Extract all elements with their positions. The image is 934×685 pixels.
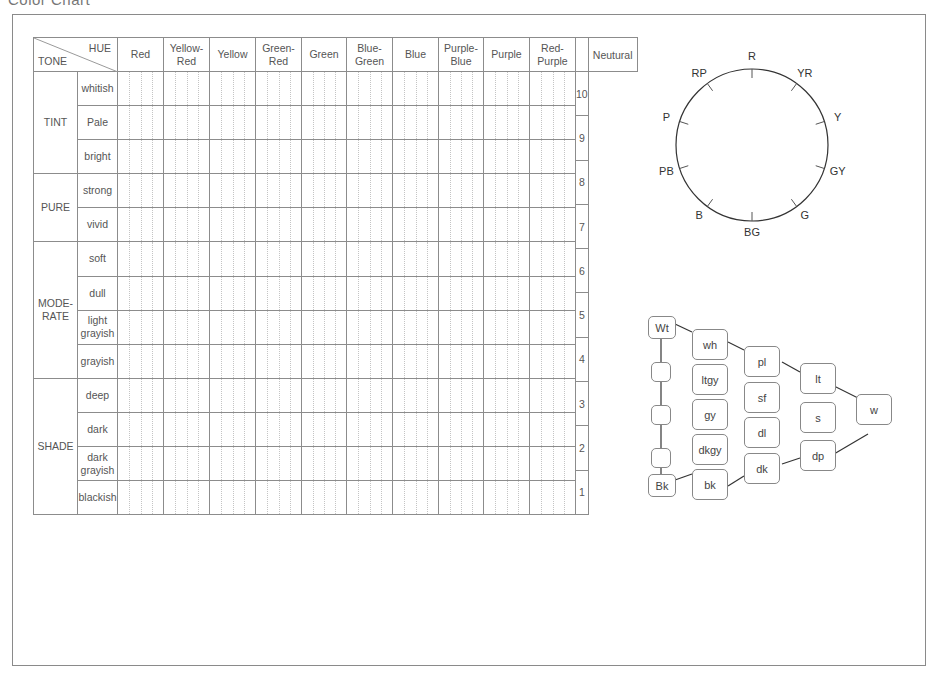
color-swatch-cell[interactable]: [302, 276, 347, 310]
color-swatch-cell[interactable]: [530, 447, 576, 481]
color-swatch-cell[interactable]: [164, 276, 210, 310]
color-swatch-cell[interactable]: [530, 208, 576, 242]
color-swatch-cell[interactable]: [439, 140, 484, 174]
color-swatch-cell[interactable]: [210, 378, 256, 412]
color-swatch-cell[interactable]: [164, 447, 210, 481]
color-swatch-cell[interactable]: [118, 140, 164, 174]
color-swatch-cell[interactable]: [530, 140, 576, 174]
color-swatch-cell[interactable]: [439, 447, 484, 481]
color-swatch-cell[interactable]: [347, 378, 393, 412]
color-swatch-cell[interactable]: [302, 344, 347, 378]
color-swatch-cell[interactable]: [530, 174, 576, 208]
color-swatch-cell[interactable]: [256, 481, 302, 515]
color-swatch-cell[interactable]: [210, 242, 256, 276]
color-swatch-cell[interactable]: [347, 310, 393, 344]
color-swatch-cell[interactable]: [164, 310, 210, 344]
color-swatch-cell[interactable]: [439, 242, 484, 276]
color-swatch-cell[interactable]: [256, 242, 302, 276]
color-swatch-cell[interactable]: [302, 242, 347, 276]
color-swatch-cell[interactable]: [393, 481, 439, 515]
color-swatch-cell[interactable]: [118, 344, 164, 378]
color-swatch-cell[interactable]: [302, 208, 347, 242]
color-swatch-cell[interactable]: [302, 310, 347, 344]
color-swatch-cell[interactable]: [256, 413, 302, 447]
color-swatch-cell[interactable]: [210, 447, 256, 481]
color-swatch-cell[interactable]: [484, 378, 530, 412]
color-swatch-cell[interactable]: [118, 276, 164, 310]
color-swatch-cell[interactable]: [484, 413, 530, 447]
color-swatch-cell[interactable]: [530, 481, 576, 515]
color-swatch-cell[interactable]: [256, 106, 302, 140]
color-swatch-cell[interactable]: [164, 208, 210, 242]
color-swatch-cell[interactable]: [347, 276, 393, 310]
color-swatch-cell[interactable]: [210, 276, 256, 310]
color-swatch-cell[interactable]: [484, 140, 530, 174]
color-swatch-cell[interactable]: [164, 106, 210, 140]
color-swatch-cell[interactable]: [118, 242, 164, 276]
neutral-value-cell[interactable]: 10: [576, 72, 588, 116]
neutral-value-cell[interactable]: 9: [576, 116, 588, 160]
color-swatch-cell[interactable]: [210, 208, 256, 242]
color-swatch-cell[interactable]: [256, 174, 302, 208]
color-swatch-cell[interactable]: [393, 106, 439, 140]
color-swatch-cell[interactable]: [302, 106, 347, 140]
color-swatch-cell[interactable]: [302, 174, 347, 208]
color-swatch-cell[interactable]: [530, 378, 576, 412]
color-swatch-cell[interactable]: [439, 276, 484, 310]
color-swatch-cell[interactable]: [302, 447, 347, 481]
color-swatch-cell[interactable]: [118, 72, 164, 106]
color-swatch-cell[interactable]: [256, 447, 302, 481]
color-swatch-cell[interactable]: [484, 276, 530, 310]
color-swatch-cell[interactable]: [484, 344, 530, 378]
color-swatch-cell[interactable]: [118, 481, 164, 515]
color-swatch-cell[interactable]: [439, 72, 484, 106]
color-swatch-cell[interactable]: [393, 72, 439, 106]
color-swatch-cell[interactable]: [393, 378, 439, 412]
color-swatch-cell[interactable]: [393, 310, 439, 344]
color-swatch-cell[interactable]: [530, 242, 576, 276]
color-swatch-cell[interactable]: [118, 378, 164, 412]
color-swatch-cell[interactable]: [484, 106, 530, 140]
color-swatch-cell[interactable]: [256, 378, 302, 412]
color-swatch-cell[interactable]: [530, 72, 576, 106]
color-swatch-cell[interactable]: [164, 242, 210, 276]
color-swatch-cell[interactable]: [393, 413, 439, 447]
color-swatch-cell[interactable]: [256, 276, 302, 310]
color-swatch-cell[interactable]: [439, 106, 484, 140]
color-swatch-cell[interactable]: [118, 208, 164, 242]
color-swatch-cell[interactable]: [210, 72, 256, 106]
color-swatch-cell[interactable]: [393, 276, 439, 310]
color-swatch-cell[interactable]: [439, 208, 484, 242]
color-swatch-cell[interactable]: [484, 72, 530, 106]
color-swatch-cell[interactable]: [210, 140, 256, 174]
color-swatch-cell[interactable]: [210, 481, 256, 515]
color-swatch-cell[interactable]: [484, 174, 530, 208]
color-swatch-cell[interactable]: [393, 242, 439, 276]
color-swatch-cell[interactable]: [530, 310, 576, 344]
color-swatch-cell[interactable]: [256, 310, 302, 344]
color-swatch-cell[interactable]: [256, 140, 302, 174]
neutral-value-cell[interactable]: 3: [576, 382, 588, 426]
color-swatch-cell[interactable]: [302, 72, 347, 106]
color-swatch-cell[interactable]: [439, 310, 484, 344]
color-swatch-cell[interactable]: [302, 413, 347, 447]
color-swatch-cell[interactable]: [347, 242, 393, 276]
color-swatch-cell[interactable]: [302, 481, 347, 515]
color-swatch-cell[interactable]: [210, 310, 256, 344]
color-swatch-cell[interactable]: [164, 140, 210, 174]
color-swatch-cell[interactable]: [302, 378, 347, 412]
neutral-value-cell[interactable]: 1: [576, 471, 588, 514]
color-swatch-cell[interactable]: [347, 106, 393, 140]
color-swatch-cell[interactable]: [439, 413, 484, 447]
color-swatch-cell[interactable]: [347, 481, 393, 515]
neutral-value-cell[interactable]: 5: [576, 293, 588, 337]
color-swatch-cell[interactable]: [530, 106, 576, 140]
color-swatch-cell[interactable]: [530, 413, 576, 447]
color-swatch-cell[interactable]: [118, 310, 164, 344]
neutral-value-cell[interactable]: 2: [576, 426, 588, 470]
color-swatch-cell[interactable]: [347, 447, 393, 481]
color-swatch-cell[interactable]: [484, 481, 530, 515]
color-swatch-cell[interactable]: [164, 72, 210, 106]
neutral-value-cell[interactable]: 4: [576, 338, 588, 382]
color-swatch-cell[interactable]: [118, 447, 164, 481]
